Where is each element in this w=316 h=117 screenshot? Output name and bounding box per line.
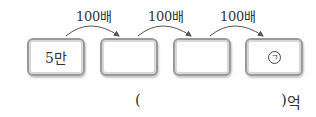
answer-open-paren: (	[135, 91, 141, 109]
arrow-1	[66, 26, 119, 36]
box-start: 5만	[27, 38, 85, 76]
start-value: 5만	[45, 47, 67, 67]
circled-giyeok-marker: ㄱ	[268, 51, 281, 64]
answer-unit: 억	[287, 91, 301, 112]
arrow-3	[210, 26, 263, 36]
arrow-2	[138, 26, 191, 36]
box-target: ㄱ	[245, 38, 303, 76]
answer-close-paren: )	[281, 91, 287, 109]
box-blank-2[interactable]	[173, 38, 231, 76]
box-blank-1[interactable]	[100, 38, 158, 76]
step-label-3: 100배	[220, 6, 256, 25]
step-label-2: 100배	[148, 6, 184, 25]
step-label-1: 100배	[76, 6, 112, 25]
